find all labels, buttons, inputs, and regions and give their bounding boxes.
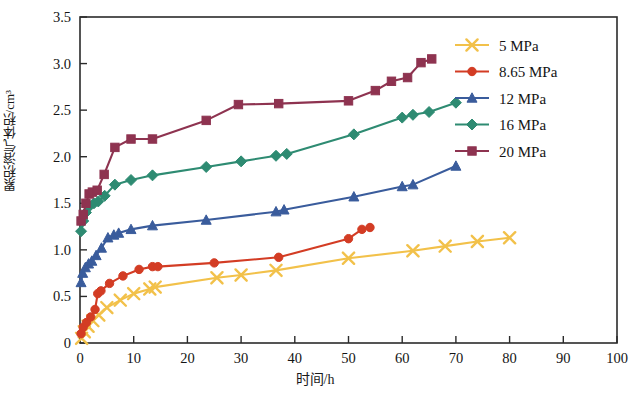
x-tick-label: 20 [180, 350, 195, 366]
chart-figure: 累积溶气体积/cm³ 时间/h 00.51.01.52.02.53.03.501… [0, 0, 630, 398]
data-marker [82, 199, 90, 207]
data-marker [236, 156, 247, 167]
legend-label: 12 MPa [499, 91, 546, 107]
data-marker [344, 97, 352, 105]
data-marker [274, 99, 282, 107]
data-marker [397, 112, 408, 123]
x-tick-label: 40 [288, 350, 303, 366]
data-marker [147, 170, 158, 181]
data-marker [105, 279, 113, 287]
data-marker [348, 129, 359, 140]
data-marker [148, 135, 156, 143]
data-marker [358, 225, 366, 233]
y-tick-label: 1.5 [53, 195, 71, 211]
series-20-mpa [77, 55, 436, 225]
y-axis-label: 累积溶气体积/cm³ [2, 90, 28, 191]
series-line [81, 228, 370, 334]
data-marker [451, 161, 461, 170]
data-marker [79, 210, 87, 218]
legend-label: 20 MPa [499, 144, 546, 160]
legend-label: 16 MPa [499, 117, 546, 133]
x-tick-label: 90 [556, 350, 571, 366]
x-tick-label: 60 [395, 350, 410, 366]
data-marker [119, 272, 127, 280]
data-marker [428, 55, 436, 63]
data-marker [76, 226, 87, 237]
x-axis-label: 时间/h [0, 368, 630, 388]
x-tick-label: 0 [76, 350, 83, 366]
data-marker [87, 313, 95, 321]
y-tick-label: 0 [64, 335, 71, 351]
y-tick-label: 0.5 [53, 288, 71, 304]
data-marker [111, 143, 119, 151]
data-marker [154, 262, 162, 270]
x-tick-label: 80 [502, 350, 517, 366]
plot-svg: 00.51.01.52.02.53.03.5010203040506070809… [0, 0, 630, 398]
data-marker [424, 107, 435, 118]
y-tick-label: 3.0 [53, 56, 71, 72]
data-marker [366, 223, 374, 231]
x-tick-label: 100 [606, 350, 628, 366]
y-tick-label: 2.0 [53, 149, 71, 165]
data-marker [271, 150, 282, 161]
data-marker [115, 295, 126, 306]
y-tick-label: 2.5 [53, 102, 71, 118]
x-tick-label: 30 [234, 350, 249, 366]
data-marker [76, 277, 86, 286]
data-marker [344, 234, 352, 242]
data-marker [97, 287, 105, 295]
data-marker [91, 305, 99, 313]
x-tick-label: 70 [449, 350, 464, 366]
legend-label: 8.65 MPa [499, 64, 558, 80]
data-marker [210, 259, 218, 267]
data-marker [201, 161, 212, 172]
data-marker [126, 175, 137, 186]
data-marker [467, 119, 478, 130]
data-marker [417, 58, 425, 66]
legend: 5 MPa8.65 MPa12 MPa16 MPa20 MPa [455, 38, 558, 160]
x-tick-label: 10 [126, 350, 141, 366]
data-marker [468, 67, 476, 75]
legend-label: 5 MPa [499, 38, 539, 54]
data-marker [202, 116, 210, 124]
data-marker [281, 148, 292, 159]
series-line [81, 166, 456, 282]
data-marker [403, 73, 411, 81]
series-8-65-mpa [77, 223, 374, 338]
data-marker [407, 109, 418, 120]
series-16-mpa [76, 97, 462, 237]
x-tick-label: 50 [341, 350, 356, 366]
data-marker [371, 86, 379, 94]
data-marker [128, 288, 139, 299]
data-marker [93, 186, 101, 194]
data-marker [387, 77, 395, 85]
data-marker [135, 265, 143, 273]
data-marker [101, 302, 112, 313]
data-marker [468, 147, 476, 155]
y-tick-label: 3.5 [53, 9, 71, 25]
y-tick-label: 1.0 [53, 242, 71, 258]
data-marker [274, 253, 282, 261]
series-5-mpa [76, 232, 515, 344]
data-marker [100, 170, 108, 178]
data-marker [127, 135, 135, 143]
data-marker [234, 100, 242, 108]
